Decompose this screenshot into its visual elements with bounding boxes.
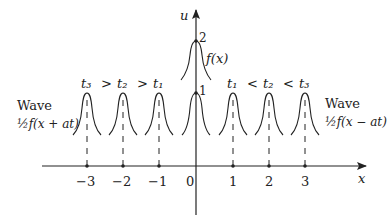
svg-text:t₁: t₁: [153, 76, 163, 91]
x-tick-neg1: −1: [148, 174, 167, 189]
svg-text:<: <: [283, 76, 294, 91]
u-axis-label: u: [180, 8, 188, 23]
u-tick-2: 2: [199, 31, 207, 45]
left-wave-expr: ½f(x + at): [17, 117, 79, 131]
svg-text:t₂: t₂: [117, 76, 127, 91]
svg-text:>: >: [101, 76, 112, 91]
x-tick-3: 3: [301, 174, 309, 189]
right-wave-title: Wave: [325, 96, 360, 111]
right-time-order: t₁ < t₂ < t₃: [227, 76, 309, 91]
x-axis-label: x: [358, 171, 366, 186]
x-tick-2: 2: [265, 174, 273, 189]
svg-text:t₁: t₁: [227, 76, 237, 91]
left-wave-title: Wave: [17, 98, 52, 113]
left-time-order: t₃ > t₂ > t₁: [81, 76, 163, 91]
wave-diagram: −3 −2 −1 0 1 2 3 1 2 x u f(x) t₃ > t₂ > …: [0, 0, 392, 222]
svg-text:<: <: [247, 76, 258, 91]
u-tick-1: 1: [199, 84, 207, 98]
x-tick-neg3: −3: [76, 174, 95, 189]
svg-text:t₃: t₃: [81, 76, 91, 91]
x-tick-neg2: −2: [112, 174, 131, 189]
svg-text:t₂: t₂: [263, 76, 273, 91]
svg-text:>: >: [137, 76, 148, 91]
x-tick-0: 0: [186, 174, 194, 189]
right-wave-expr: ½f(x − at): [325, 115, 387, 129]
f-label: f(x): [205, 51, 228, 66]
svg-text:t₃: t₃: [299, 76, 309, 91]
x-tick-1: 1: [229, 174, 237, 189]
